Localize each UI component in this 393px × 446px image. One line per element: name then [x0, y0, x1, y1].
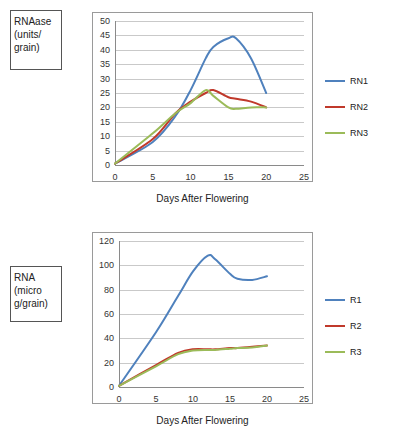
legend-color-swatch [325, 80, 345, 82]
bottom-chart-panel: RNA (micro g/grain) 02040608010012005101… [0, 222, 393, 446]
top-x-axis-label: Days After Flowering [92, 193, 313, 204]
legend-label: RN3 [350, 128, 368, 138]
legend-color-swatch [325, 106, 345, 108]
bottom-legend: R1 R2 R3 [325, 292, 362, 370]
legend-item: R1 [325, 292, 362, 308]
legend-color-swatch [325, 351, 345, 353]
series-line-r1 [119, 255, 267, 386]
legend-item: RN2 [325, 99, 368, 115]
legend-color-swatch [325, 325, 345, 327]
top-chart-panel: RNAase (units/ grain) 051015202530354045… [0, 0, 393, 218]
legend-label: R1 [350, 295, 362, 305]
bottom-y-axis-caption: RNA (micro g/grain) [10, 266, 62, 322]
series-line-r2 [119, 346, 267, 386]
series-lines [93, 233, 312, 403]
legend-color-swatch [325, 132, 345, 134]
bottom-plot-area: 0204060801001200510152025 [92, 232, 313, 404]
legend-label: RN1 [350, 76, 368, 86]
legend-label: RN2 [350, 102, 368, 112]
legend-item: R3 [325, 344, 362, 360]
chart-page: RNAase (units/ grain) 051015202530354045… [0, 0, 393, 446]
series-line-r3 [119, 346, 267, 386]
top-y-axis-caption: RNAase (units/ grain) [10, 10, 62, 70]
series-lines [93, 13, 312, 181]
legend-item: RN1 [325, 73, 368, 89]
bottom-x-axis-label: Days After Flowering [92, 415, 313, 426]
top-legend: RN1 RN2 RN3 [325, 73, 368, 151]
legend-color-swatch [325, 299, 345, 301]
legend-item: RN3 [325, 125, 368, 141]
legend-item: R2 [325, 318, 362, 334]
top-plot-area: 051015202530354045500510152025 [92, 12, 313, 182]
legend-label: R3 [350, 347, 362, 357]
legend-label: R2 [350, 321, 362, 331]
